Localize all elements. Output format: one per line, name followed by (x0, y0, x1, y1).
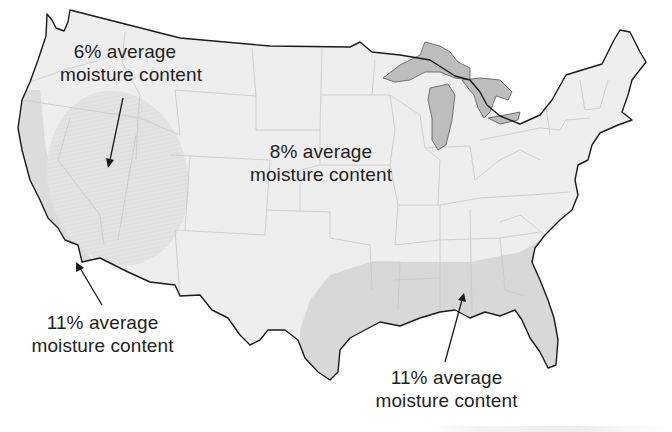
zone-label-line2: moisture content (60, 63, 190, 86)
zone-label-11-percent-southeast: 11% average moisture content (354, 366, 539, 412)
cropped-credit-line (430, 426, 670, 432)
zone-label-line1: 11% average (10, 311, 195, 334)
moisture-content-map: 6% average moisture content 8% average m… (0, 0, 672, 432)
zone-label-line2: moisture content (226, 163, 416, 186)
zone-label-line1: 6% average (60, 40, 190, 63)
zone-label-line1: 11% average (354, 366, 539, 389)
zone-label-8-percent: 8% average moisture content (226, 140, 416, 186)
zone-label-line1: 8% average (226, 140, 416, 163)
zone-label-line2: moisture content (354, 389, 539, 412)
zone-label-line2: moisture content (10, 334, 195, 357)
arrow-11-percent-west (76, 262, 102, 305)
zone-label-11-percent-pacific: 11% average moisture content (10, 311, 195, 357)
zone-label-6-percent: 6% average moisture content (60, 40, 190, 86)
